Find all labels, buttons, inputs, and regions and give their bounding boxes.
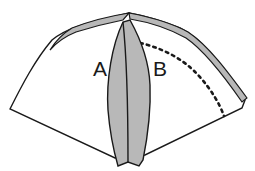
fold-diagram: A B: [0, 0, 255, 171]
label-a: A: [93, 57, 107, 80]
label-b: B: [153, 57, 167, 80]
